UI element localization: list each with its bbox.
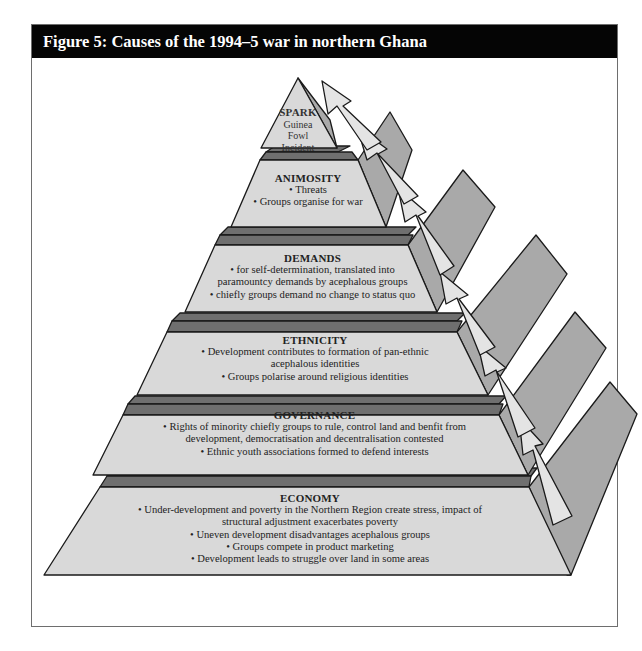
layer-line: paramountcy demands by acephalous groups (190, 276, 435, 288)
layer-line: • Groups organise for war (228, 196, 388, 208)
layer-economy: ECONOMY • Under-development and poverty … (70, 492, 550, 565)
layer-title: ECONOMY (70, 492, 550, 504)
layer-ethnicity: ETHNICITY • Development contributes to f… (160, 334, 470, 383)
layer-line: • Threats (228, 184, 388, 196)
layer-line: • Rights of minority chiefly groups to r… (112, 421, 517, 433)
layer-line: • Development leads to struggle over lan… (70, 553, 550, 565)
layer-line: • Groups polarise around religious ident… (160, 371, 470, 383)
layer-line: • Development contributes to formation o… (160, 346, 470, 358)
layer-line: • for self-determination, translated int… (190, 264, 435, 276)
layer-line: acephalous identities (160, 358, 470, 370)
layer-line: development, democratisation and decentr… (112, 433, 517, 445)
layer-title: DEMANDS (190, 252, 435, 264)
layer-line: • Groups compete in product marketing (70, 541, 550, 553)
layer-line: • Uneven development disadvantages aceph… (70, 529, 550, 541)
layer-line: Incident (268, 142, 328, 154)
layer-spark: SPARK Guinea Fowl Incident (268, 107, 328, 153)
layer-title: SPARK (268, 107, 328, 119)
layer-line: • Under-development and poverty in the N… (70, 504, 550, 516)
layer-line: • chiefly groups demand no change to sta… (190, 289, 435, 301)
layer-line: • Ethnic youth associations formed to de… (112, 446, 517, 458)
layer-title: ETHNICITY (160, 334, 470, 346)
layer-title: GOVERNANCE (112, 409, 517, 421)
layer-demands: DEMANDS • for self-determination, transl… (190, 252, 435, 301)
layer-title: ANIMOSITY (228, 172, 388, 184)
layer-line: Fowl (268, 130, 328, 142)
layer-governance: GOVERNANCE • Rights of minority chiefly … (112, 409, 517, 458)
layer-line: Guinea (268, 119, 328, 131)
layer-animosity: ANIMOSITY • Threats • Groups organise fo… (228, 172, 388, 209)
layer-line: structural adjustment exacerbates povert… (70, 516, 550, 528)
